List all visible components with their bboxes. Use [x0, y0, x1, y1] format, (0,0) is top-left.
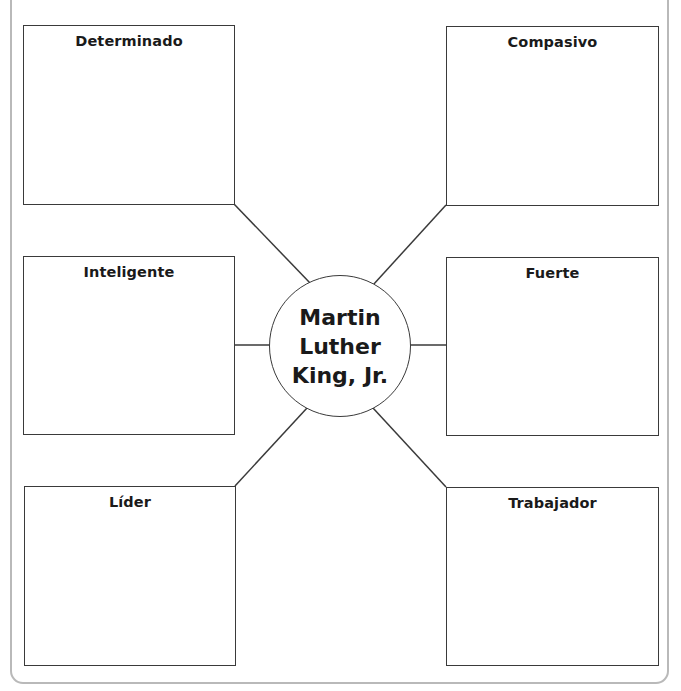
center-name-line-3: King, Jr.	[292, 361, 388, 390]
connector-top-right	[373, 205, 446, 285]
connector-bottom-left	[235, 408, 307, 486]
trait-label: Determinado	[24, 33, 234, 49]
center-circle: Martin Luther King, Jr.	[269, 275, 411, 417]
trait-label: Inteligente	[24, 264, 234, 280]
trait-label: Fuerte	[447, 265, 658, 281]
trait-writing-area[interactable]	[453, 520, 652, 659]
trait-box-inteligente: Inteligente	[23, 256, 235, 435]
trait-writing-area[interactable]	[453, 59, 652, 199]
center-name-line-2: Luther	[299, 332, 381, 361]
connector-top-left	[234, 204, 311, 284]
trait-box-compasivo: Compasivo	[446, 26, 659, 206]
trait-box-fuerte: Fuerte	[446, 257, 659, 436]
trait-label: Compasivo	[447, 34, 658, 50]
trait-label: Trabajador	[447, 495, 658, 511]
trait-writing-area[interactable]	[30, 58, 228, 198]
connector-bottom-right	[373, 408, 446, 487]
trait-box-determinado: Determinado	[23, 25, 235, 205]
trait-label: Líder	[25, 494, 235, 510]
trait-writing-area[interactable]	[30, 289, 228, 428]
center-name-line-1: Martin	[299, 303, 380, 332]
trait-box-lider: Líder	[24, 486, 236, 666]
trait-writing-area[interactable]	[453, 290, 652, 429]
trait-box-trabajador: Trabajador	[446, 487, 659, 666]
trait-writing-area[interactable]	[31, 519, 229, 659]
